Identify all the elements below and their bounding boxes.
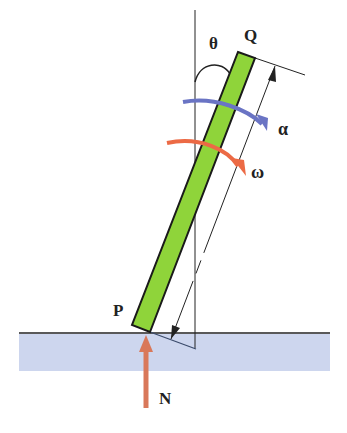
point-q-label: Q <box>244 26 257 45</box>
point-p-label: P <box>113 301 123 320</box>
rod <box>132 52 255 332</box>
normal-force-label: N <box>159 389 172 408</box>
theta-label: θ <box>209 34 218 53</box>
ground-surface <box>19 334 330 371</box>
dimension-arrowhead-top <box>268 66 276 82</box>
rod-diagram: θ Q P α ω N <box>0 0 347 433</box>
dimension-extension-top <box>255 58 305 75</box>
theta-angle-arc <box>195 65 230 82</box>
omega-label: ω <box>251 162 264 182</box>
alpha-label: α <box>278 119 288 139</box>
